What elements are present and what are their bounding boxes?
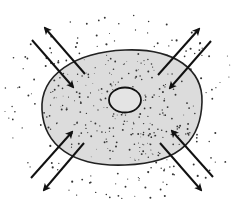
nucleus xyxy=(109,88,141,113)
cell-diffusion-diagram xyxy=(0,0,238,207)
diagram-canvas xyxy=(0,0,238,207)
